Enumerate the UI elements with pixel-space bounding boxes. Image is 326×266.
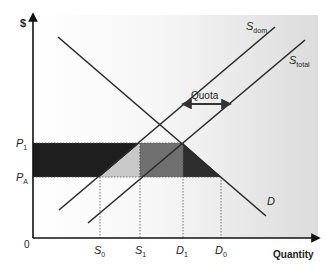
quantity-label-d0: D0 — [215, 244, 227, 258]
price-label-pa: PA — [16, 171, 28, 185]
price-label-p1: P1 — [16, 137, 27, 151]
quota-diagram: $ Quantity 0 P1 PA S0 S1 D1 D0 Sdom Stot… — [0, 0, 326, 266]
quantity-label-s0: S0 — [94, 244, 105, 258]
quantity-label-d1: D1 — [176, 244, 188, 258]
y-axis-label: $ — [20, 17, 26, 29]
plot-background — [33, 15, 318, 238]
origin-label: 0 — [24, 239, 30, 250]
x-axis-label: Quantity — [273, 249, 314, 260]
label-demand: D — [267, 195, 275, 207]
quantity-label-s1: S1 — [135, 244, 146, 258]
quota-label: Quota — [191, 90, 219, 101]
